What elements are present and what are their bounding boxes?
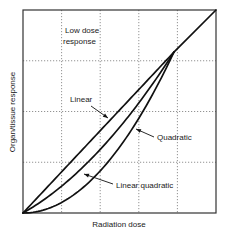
- annotation-low-dose-line1: Low dose: [65, 26, 100, 35]
- series-high-dose-shared--line: [174, 10, 216, 52]
- y-axis-label: Organ/tissue response: [8, 71, 17, 152]
- annotation-quadratic: Quadratic: [157, 133, 192, 142]
- arrow-linear: [91, 106, 108, 118]
- annotation-arrows: [84, 106, 154, 184]
- dose-response-chart: Low dose response Linear Quadratic Linea…: [0, 0, 225, 235]
- annotation-low-dose-line2: response: [63, 37, 96, 46]
- annotation-linear-quadratic: Linear quadratic: [116, 181, 173, 190]
- arrow-quadratic-head: [136, 129, 141, 133]
- annotation-linear: Linear: [70, 95, 93, 104]
- arrow-linear-head: [103, 113, 108, 118]
- arrow-linear-quadratic-head: [84, 174, 89, 178]
- x-axis-label: Radiation dose: [92, 220, 146, 229]
